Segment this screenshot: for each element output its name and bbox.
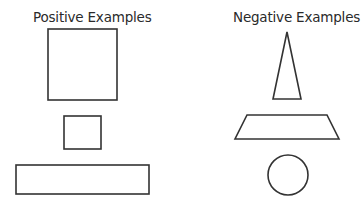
examples-diagram (0, 0, 361, 205)
trapezoid-shape (235, 115, 339, 139)
circle-shape (268, 155, 308, 195)
negative-examples-group (235, 32, 339, 195)
wide-rectangle-shape (16, 165, 149, 194)
tall-triangle-shape (273, 32, 301, 99)
small-square-shape (64, 116, 101, 149)
large-square-shape (48, 29, 117, 100)
positive-examples-group (16, 29, 149, 194)
